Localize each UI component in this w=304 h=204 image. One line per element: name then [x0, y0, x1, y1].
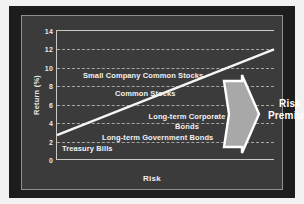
y-tick-4: 4 — [49, 120, 53, 127]
y-tick-8: 8 — [49, 83, 53, 90]
x-axis-label: Risk — [22, 174, 282, 183]
slide-frame: Return (%) 14 12 10 8 6 4 2 0 — [9, 6, 295, 198]
risk-premium-arrow-icon — [218, 75, 260, 153]
y-tick-14: 14 — [45, 28, 53, 35]
y-axis-label: Return (%) — [32, 75, 41, 115]
y-tick-10: 10 — [45, 64, 53, 71]
annotation-risk-premium: Risk Premium — [261, 98, 304, 122]
y-tick-6: 6 — [49, 101, 53, 108]
annotation-treasury-bills: Treasury Bills — [62, 144, 113, 154]
risk-premium-line1: Risk — [261, 98, 304, 110]
y-tick-12: 12 — [45, 46, 53, 53]
annotation-long-term-government-bonds: Long-term Government Bonds — [102, 133, 213, 143]
plot-area: 14 12 10 8 6 4 2 0 Smal — [56, 30, 274, 160]
risk-premium-line2: Premium — [261, 110, 304, 122]
chart-panel: Return (%) 14 12 10 8 6 4 2 0 — [21, 15, 283, 190]
y-tick-0: 0 — [49, 157, 53, 164]
screenshot-root: Return (%) 14 12 10 8 6 4 2 0 — [0, 0, 304, 204]
y-tick-2: 2 — [49, 138, 53, 145]
annotation-small-company-common-stocks: Small Company Common Stocks — [83, 71, 203, 81]
annotation-common-stocks: Common Stocks — [115, 89, 175, 99]
